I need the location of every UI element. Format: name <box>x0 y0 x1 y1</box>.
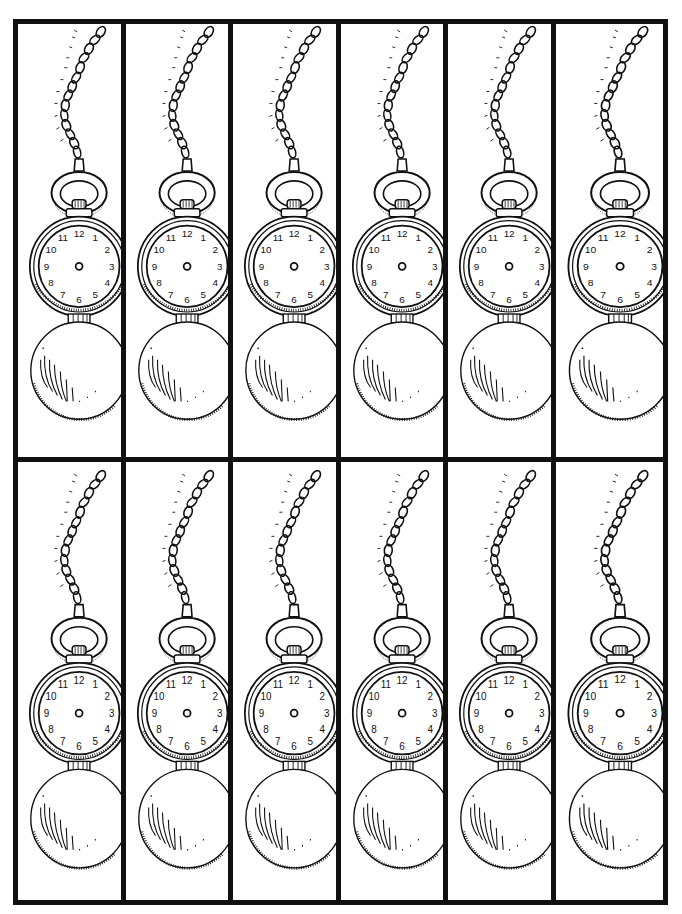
watch-lid <box>461 769 551 868</box>
clock-number: 8 <box>156 724 162 735</box>
chain-icon <box>269 469 322 609</box>
swivel-icon <box>74 159 84 171</box>
clock-number: 9 <box>366 261 372 272</box>
clock-face: 121234567891011 <box>30 217 121 316</box>
clock-number: 2 <box>212 691 218 702</box>
clock-number: 3 <box>216 261 222 272</box>
swivel-icon <box>397 159 407 171</box>
clock-number: 7 <box>383 736 389 747</box>
watch-lid <box>246 322 336 420</box>
clock-number: 6 <box>184 741 190 752</box>
chain-icon <box>594 469 650 609</box>
clock-number: 9 <box>474 708 480 719</box>
center-pin-icon <box>291 710 298 717</box>
clock-number: 2 <box>320 691 326 702</box>
clock-face: 121234567891011 <box>460 217 551 316</box>
clock-number: 5 <box>93 289 99 300</box>
watch-lid <box>138 322 228 420</box>
clock-number: 8 <box>263 724 269 735</box>
swivel-icon <box>74 605 84 617</box>
center-pin-icon <box>616 263 623 270</box>
clock-number: 12 <box>614 675 626 686</box>
clock-number: 4 <box>320 724 326 735</box>
clock-face: 121234567891011 <box>137 217 228 316</box>
clock-number: 1 <box>308 679 314 690</box>
clock-number: 7 <box>168 736 174 747</box>
clock-number: 12 <box>181 228 192 239</box>
clock-number: 10 <box>368 691 379 702</box>
watch-lid <box>31 769 121 868</box>
clock-number: 4 <box>535 277 541 288</box>
swivel-icon <box>614 605 624 617</box>
chain-icon <box>377 469 430 609</box>
clock-number: 4 <box>105 724 111 735</box>
clock-number: 12 <box>396 228 407 239</box>
chain-icon <box>54 25 107 163</box>
pocket-watch-illustration: 121234567891011 <box>556 24 664 457</box>
clock-number: 1 <box>93 679 99 690</box>
chain-icon <box>594 25 650 163</box>
clock-number: 11 <box>273 679 284 690</box>
clock-number: 4 <box>535 724 541 735</box>
bookmark-cell-r1-c6: 121234567891011 <box>556 24 664 462</box>
clock-number: 7 <box>60 736 66 747</box>
pocket-watch-illustration: 121234567891011 <box>341 24 444 457</box>
clock-number: 7 <box>275 289 280 300</box>
clock-number: 11 <box>380 232 391 243</box>
pocket-watch-illustration: 121234567891011 <box>233 462 336 900</box>
clock-number: 3 <box>651 708 657 719</box>
clock-number: 5 <box>308 289 314 300</box>
clock-number: 9 <box>583 261 589 272</box>
clock-face: 121234567891011 <box>245 217 336 316</box>
clock-number: 12 <box>289 674 300 685</box>
clock-number: 8 <box>478 724 484 735</box>
center-pin-icon <box>506 263 513 270</box>
clock-number: 5 <box>523 736 529 747</box>
clock-number: 2 <box>646 245 652 256</box>
clock-number: 6 <box>617 294 623 305</box>
clock-number: 5 <box>308 736 314 747</box>
clock-number: 8 <box>156 277 162 288</box>
clock-number: 11 <box>488 679 499 690</box>
clock-number: 11 <box>488 232 499 243</box>
center-pin-icon <box>398 710 405 717</box>
swivel-icon <box>182 159 192 171</box>
clock-number: 3 <box>539 261 545 272</box>
swivel-icon <box>289 159 299 171</box>
clock-number: 12 <box>289 228 300 239</box>
clock-face: 121234567891011 <box>352 217 443 316</box>
center-pin-icon <box>398 263 405 270</box>
center-pin-icon <box>76 263 83 270</box>
clock-number: 10 <box>584 691 596 702</box>
center-pin-icon <box>506 710 513 717</box>
chain-icon <box>162 25 215 163</box>
clock-number: 10 <box>153 244 164 255</box>
center-pin-icon <box>616 710 623 717</box>
clock-number: 6 <box>617 741 623 752</box>
clock-number: 1 <box>634 233 640 244</box>
clock-number: 8 <box>48 277 54 288</box>
center-pin-icon <box>291 263 298 270</box>
clock-number: 1 <box>523 232 529 243</box>
pocket-watch-illustration: 121234567891011 <box>18 24 121 457</box>
clock-number: 2 <box>535 244 540 255</box>
clock-number: 10 <box>260 691 271 702</box>
clock-number: 8 <box>263 277 269 288</box>
bookmark-cell-r1-c1: 121234567891011 <box>18 24 126 462</box>
clock-number: 5 <box>634 737 640 748</box>
chain-icon <box>484 469 537 609</box>
clock-number: 1 <box>634 679 640 690</box>
clock-number: 10 <box>475 691 486 702</box>
clock-face: 121234567891011 <box>568 217 663 316</box>
swivel-icon <box>614 159 624 171</box>
clock-number: 2 <box>320 244 325 255</box>
clock-number: 8 <box>587 277 593 288</box>
clock-number: 3 <box>109 261 115 272</box>
clock-number: 3 <box>216 708 222 719</box>
clock-number: 4 <box>427 724 433 735</box>
clock-number: 5 <box>523 289 529 300</box>
clock-number: 4 <box>105 277 111 288</box>
clock-number: 12 <box>74 228 85 239</box>
clock-number: 3 <box>324 261 330 272</box>
clock-number: 11 <box>58 679 69 690</box>
